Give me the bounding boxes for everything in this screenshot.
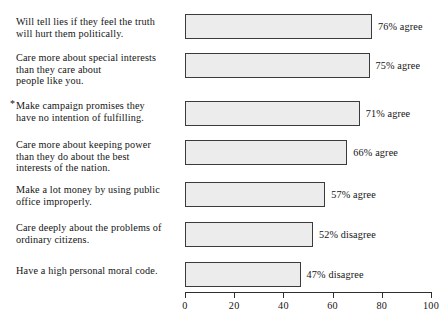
x-axis-tick-label: 20: [229, 301, 240, 311]
bar-value-label: 76% agree: [378, 22, 423, 32]
bar: [185, 14, 372, 39]
bar-value-label: 71% agree: [366, 109, 411, 119]
statement-label: Care more about special intereststhan th…: [16, 52, 188, 87]
x-axis-line: [185, 292, 431, 293]
statement-line: will hurt them politically.: [16, 28, 188, 40]
bar: [185, 53, 370, 78]
footnote-marker-icon: *: [10, 99, 15, 109]
statement-label: Care more about keeping powerthan they d…: [16, 139, 188, 174]
x-axis-tick: [333, 292, 334, 298]
x-axis-tick: [431, 292, 432, 298]
x-axis-tick-label: 100: [423, 301, 439, 311]
statement-line: have no intention of fulfilling.: [16, 112, 188, 124]
statement-line: Care more about keeping power: [16, 139, 188, 151]
statement-label: Have a high personal moral code.: [16, 265, 188, 277]
statement-line: office improperly.: [16, 196, 188, 208]
statement-line: than they do about the best: [16, 151, 188, 163]
statement-label-column: Will tell lies if they feel the truthwil…: [0, 0, 185, 290]
plot-area: 76% agree75% agree71% agree66% agree57% …: [185, 0, 431, 292]
statement-label: *Make campaign promises theyhave no inte…: [16, 100, 188, 123]
x-axis-tick: [234, 292, 235, 298]
statement-line: Care deeply about the problems of: [16, 222, 188, 234]
x-axis-tick-label: 60: [327, 301, 338, 311]
statement-line: interests of the nation.: [16, 162, 188, 174]
bar: [185, 101, 360, 126]
bar-value-label: 57% agree: [331, 190, 376, 200]
bar-value-label: 75% agree: [376, 61, 421, 71]
bar: [185, 222, 313, 247]
x-axis-tick: [283, 292, 284, 298]
statement-label: Care deeply about the problems ofordinar…: [16, 222, 188, 245]
statement-line: Care more about special interests: [16, 52, 188, 64]
horizontal-bar-chart: Will tell lies if they feel the truthwil…: [0, 0, 448, 327]
statement-line: people like you.: [16, 75, 188, 87]
bar: [185, 140, 347, 165]
statement-line: Will tell lies if they feel the truth: [16, 16, 188, 28]
statement-line: Have a high personal moral code.: [16, 265, 188, 277]
bar-value-label: 52% disagree: [319, 230, 376, 240]
bar-value-label: 47% disagree: [307, 270, 364, 280]
statement-label: Will tell lies if they feel the truthwil…: [16, 16, 188, 39]
x-axis-tick: [185, 292, 186, 298]
x-axis-tick-label: 0: [182, 301, 187, 311]
statement-line: than they care about: [16, 64, 188, 76]
x-axis-tick-label: 40: [278, 301, 289, 311]
statement-line: Make campaign promises they: [16, 100, 188, 112]
x-axis-tick: [382, 292, 383, 298]
statement-label: Make a lot money by using publicoffice i…: [16, 184, 188, 207]
bar: [185, 262, 301, 287]
x-axis-tick-label: 80: [376, 301, 387, 311]
bar-value-label: 66% agree: [353, 148, 398, 158]
statement-line: ordinary citizens.: [16, 234, 188, 246]
bar: [185, 182, 325, 207]
statement-line: Make a lot money by using public: [16, 184, 188, 196]
